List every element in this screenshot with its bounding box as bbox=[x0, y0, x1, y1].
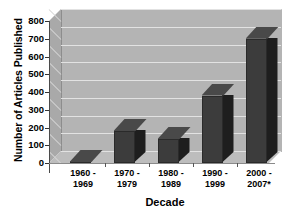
gridline bbox=[61, 9, 281, 10]
x-tick-mark bbox=[105, 163, 106, 167]
x-tick-label: 2000 -2007* bbox=[231, 168, 287, 190]
y-tick-label: 800 bbox=[18, 16, 44, 25]
x-tick-mark bbox=[193, 163, 194, 167]
y-tick-label: 600 bbox=[18, 52, 44, 61]
bar bbox=[114, 119, 135, 163]
bar bbox=[70, 150, 91, 163]
y-tick-label: 400 bbox=[18, 87, 44, 96]
x-axis-title: Decade bbox=[49, 196, 281, 208]
x-axis-line bbox=[49, 163, 275, 164]
bar-chart: Number of Articles Published 80070060050… bbox=[0, 0, 292, 215]
y-tick-label: 0 bbox=[18, 158, 44, 167]
x-tick-label-line: 2000 - bbox=[231, 168, 287, 179]
bar-side-face bbox=[266, 38, 278, 163]
plot-area bbox=[49, 9, 281, 175]
x-tick-label-line: 2007* bbox=[231, 179, 287, 190]
x-tick-mark bbox=[149, 163, 150, 167]
y-axis-tick-labels: 8007006005004003002001000 bbox=[18, 0, 44, 215]
bar bbox=[202, 84, 223, 163]
x-axis-tick-labels: 1960 -19691970 -19791980 -19891990 -1999… bbox=[49, 168, 281, 196]
y-tick-label: 300 bbox=[18, 105, 44, 114]
bar-front-face bbox=[202, 96, 223, 163]
bar-front-face bbox=[114, 131, 135, 163]
y-tick-label: 100 bbox=[18, 140, 44, 149]
y-tick-label: 200 bbox=[18, 123, 44, 132]
y-tick-label: 500 bbox=[18, 69, 44, 78]
bar bbox=[246, 27, 267, 163]
y-axis-line bbox=[49, 21, 50, 173]
x-tick-mark bbox=[237, 163, 238, 167]
bar-front-face bbox=[158, 139, 179, 163]
bar bbox=[158, 127, 179, 163]
y-tick-label: 700 bbox=[18, 34, 44, 43]
bar-front-face bbox=[246, 39, 267, 163]
bar-side-face bbox=[222, 95, 234, 163]
